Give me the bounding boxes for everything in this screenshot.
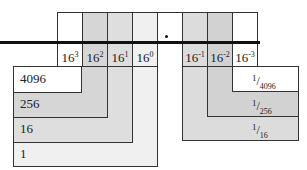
radix-point-dot — [165, 35, 168, 38]
power-label-16-3: 163 — [57, 43, 83, 70]
power-label-16-neg2: 16-2 — [207, 43, 233, 70]
digit-cell-16-neg2 — [207, 12, 233, 43]
digit-cell-16-3 — [57, 12, 83, 43]
digit-cell-16-1 — [107, 12, 133, 43]
digit-cell-16-0 — [132, 12, 158, 43]
digit-cell-16-neg3 — [232, 12, 258, 43]
power-label-16-neg1: 16-1 — [182, 43, 208, 70]
power-label-16-1: 161 — [107, 43, 133, 70]
value-1-16: 1/16 — [252, 115, 268, 148]
power-label-16-2: 162 — [82, 43, 108, 70]
digit-cell-16-2 — [82, 12, 108, 43]
digit-cell-16-neg1 — [182, 12, 208, 43]
power-label-16-0: 160 — [132, 43, 158, 70]
value-4096: 4096 — [20, 67, 46, 91]
value-16: 16 — [20, 117, 33, 141]
value-1: 1 — [20, 142, 27, 166]
radix-point-cell — [157, 12, 183, 43]
value-256: 256 — [20, 92, 40, 116]
